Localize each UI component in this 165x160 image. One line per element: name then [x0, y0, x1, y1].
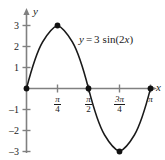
fraction-denominator: 2 — [85, 105, 92, 114]
y-tick-label-3: 3 — [6, 21, 19, 31]
equation-annotation: y=3sin(2x) — [79, 34, 133, 45]
x-axis-label: x — [156, 82, 161, 93]
fraction-pi-2: π 2 — [85, 95, 92, 115]
y-axis-label: y — [33, 6, 38, 17]
y-tick-label-neg3: –3 — [2, 147, 19, 157]
point-zero-end — [148, 86, 154, 92]
equation-paren-close: ) — [130, 33, 134, 45]
fraction-numerator: π — [85, 95, 92, 104]
plot-canvas — [0, 0, 165, 160]
sine-curve-figure: y x 3 2 1 –1 –2 –3 π 4 π 2 3π 4 π y=3sin… — [0, 0, 165, 160]
fraction-denominator: 4 — [54, 105, 61, 114]
fraction-numerator: π — [54, 95, 61, 104]
fraction-denominator: 4 — [114, 105, 125, 114]
x-tick-label-pi: π — [145, 95, 156, 104]
x-tick-label-three-pi-over-4: 3π 4 — [110, 95, 129, 115]
y-axis-arrow — [23, 8, 29, 15]
fraction-numerator: 3π — [114, 95, 125, 104]
y-tick-label-1: 1 — [6, 63, 19, 73]
fraction-pi-4: π 4 — [54, 95, 61, 115]
point-zero-mid — [86, 86, 92, 92]
x-tick-label-pi-over-2: π 2 — [80, 95, 97, 115]
equation-coefficient: 3 — [94, 33, 100, 45]
equation-lhs: y — [79, 33, 84, 45]
y-tick-label-neg1: –1 — [2, 105, 19, 115]
x-tick-label-pi-over-4: π 4 — [49, 95, 66, 115]
fraction-3pi-4: 3π 4 — [114, 95, 125, 115]
y-tick-label-neg2: –2 — [2, 126, 19, 136]
point-min — [117, 149, 123, 155]
point-max — [55, 23, 61, 29]
y-tick-label-2: 2 — [6, 42, 19, 52]
point-origin — [24, 86, 30, 92]
equation-function: sin(2 — [103, 33, 125, 45]
equation-equals: = — [86, 33, 92, 45]
